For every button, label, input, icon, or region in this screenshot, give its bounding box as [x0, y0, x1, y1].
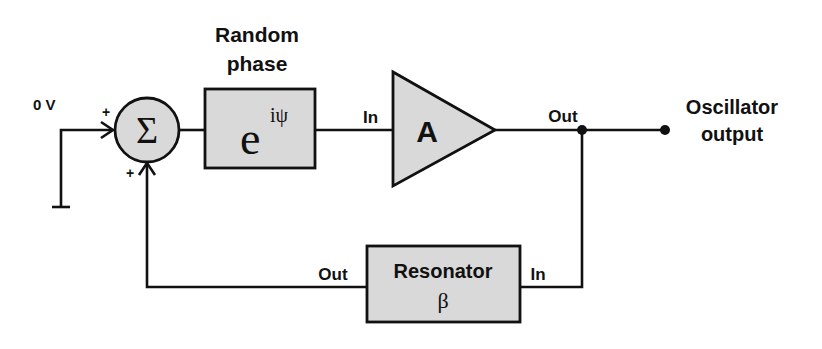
- amp-in-label: In: [363, 108, 378, 127]
- resonator-out-label: Out: [318, 265, 348, 284]
- resonator-block: Resonator β: [367, 246, 520, 322]
- amp-out-label: Out: [548, 107, 578, 126]
- output-label-line2: output: [701, 123, 764, 145]
- summer-plus-bottom: +: [126, 165, 134, 181]
- input-ground: [52, 122, 113, 207]
- phase-title-line1: Random: [215, 23, 299, 46]
- feedback-wire-right: [520, 130, 582, 287]
- random-phase-block: e iψ: [205, 89, 315, 168]
- resonator-beta: β: [437, 288, 448, 313]
- resonator-title: Resonator: [394, 260, 493, 282]
- phase-title-line2: phase: [227, 52, 288, 75]
- summer-node: Σ: [115, 98, 179, 162]
- resonator-in-label: In: [530, 265, 545, 284]
- output-terminal: [660, 125, 670, 135]
- amp-symbol: A: [416, 115, 438, 148]
- input-label: 0 V: [33, 96, 56, 113]
- summer-plus-top: +: [102, 104, 110, 120]
- oscillator-block-diagram: 0 V + + Σ Random phase e iψ In A Out Osc…: [0, 0, 822, 349]
- phase-exponent: iψ: [270, 104, 289, 127]
- output-label-line1: Oscillator: [686, 96, 778, 118]
- phase-base: e: [240, 113, 260, 164]
- amplifier: A: [393, 72, 495, 186]
- sigma-symbol: Σ: [136, 109, 158, 151]
